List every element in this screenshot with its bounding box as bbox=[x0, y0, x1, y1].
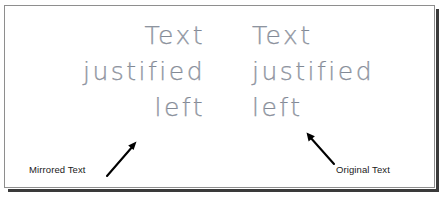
original-text-block: Text justified left bbox=[252, 18, 437, 126]
mirrored-text-block: Text justified left bbox=[20, 18, 205, 126]
original-text-line-2: justified bbox=[252, 54, 437, 90]
mirrored-text-label: Mirrored Text bbox=[29, 164, 86, 175]
original-text-label: Original Text bbox=[336, 164, 390, 175]
mirrored-text-line-2: justified bbox=[20, 54, 205, 90]
mirrored-text-line-1: Text bbox=[20, 18, 205, 54]
panel-shadow-bottom bbox=[8, 189, 439, 192]
mirrored-text-line-3: left bbox=[20, 90, 205, 126]
original-text-line-1: Text bbox=[252, 18, 437, 54]
original-text-line-3: left bbox=[252, 90, 437, 126]
figure-root: Text justified left Text justified left … bbox=[0, 0, 444, 201]
